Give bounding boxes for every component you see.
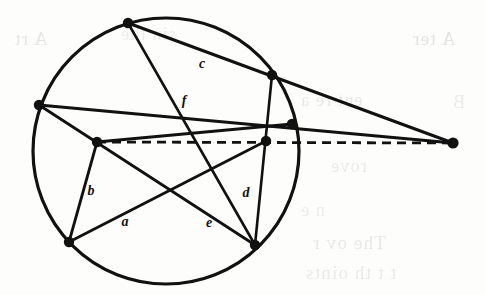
vertex-left-vertex: [34, 100, 44, 110]
chord-upper-right-to-bottom-right: [255, 75, 272, 245]
vertex-inner-left-vertex: [92, 137, 102, 147]
figure-canvas: A rtsin theA terent re aBroven eThe ov r…: [0, 0, 485, 295]
chord-lines: [39, 23, 453, 245]
segment-label-f: f: [182, 93, 188, 108]
vertex-bottom-left-vertex: [64, 237, 74, 247]
segment-label-e: e: [206, 215, 212, 230]
vertex-upper-right-vertex: [267, 70, 277, 80]
vertex-right-vertex: [287, 119, 297, 129]
geometry-diagram: cfbdae: [0, 0, 485, 295]
vertex-inner-right-vertex: [261, 136, 271, 146]
vertex-external-point: [447, 137, 458, 148]
segment-label-a: a: [122, 214, 129, 229]
chord-left-to-bottom-right: [39, 105, 255, 245]
vertex-points: [34, 18, 459, 250]
chord-bottom-left-to-inner-right: [69, 141, 266, 242]
segment-labels: cfbdae: [88, 56, 251, 230]
segment-label-c: c: [199, 56, 206, 71]
vertex-bottom-right-vertex: [250, 240, 260, 250]
segment-label-d: d: [243, 185, 251, 200]
dashed-axis-line: [97, 142, 453, 143]
chord-left-to-external: [39, 105, 453, 143]
vertex-top-vertex: [123, 18, 133, 28]
segment-label-b: b: [88, 183, 95, 198]
dashed-axis: [97, 142, 453, 143]
